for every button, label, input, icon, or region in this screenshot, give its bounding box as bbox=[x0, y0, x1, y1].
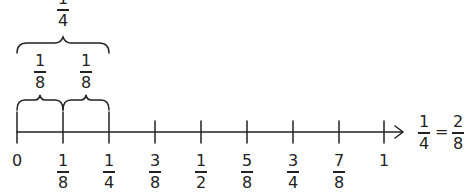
numerator: 1 bbox=[419, 113, 429, 131]
denominator: 8 bbox=[35, 74, 45, 92]
equation-right-fraction: 2 8 bbox=[452, 113, 464, 153]
tick-label-0: 0 bbox=[12, 152, 22, 170]
tick-label-1: 1 bbox=[379, 152, 389, 170]
tick-label-1-8: 1 8 bbox=[57, 152, 69, 192]
denominator: 8 bbox=[58, 174, 68, 192]
tick-label-5-8: 5 8 bbox=[241, 152, 253, 192]
numerator: 3 bbox=[150, 152, 160, 170]
numerator: 5 bbox=[242, 152, 252, 170]
tick-label-1-2: 1 2 bbox=[195, 152, 207, 192]
numerator: 7 bbox=[334, 152, 344, 170]
brace-lower-eighth-2 bbox=[63, 95, 109, 110]
denominator: 4 bbox=[419, 135, 429, 153]
denominator: 8 bbox=[242, 174, 252, 192]
denominator: 8 bbox=[453, 135, 463, 153]
denominator: 2 bbox=[196, 174, 206, 192]
tick-label-3-8: 3 8 bbox=[149, 152, 161, 192]
numerator: 1 bbox=[104, 152, 114, 170]
numerator: 1 bbox=[196, 152, 206, 170]
denominator: 4 bbox=[104, 174, 114, 192]
equation-left-fraction: 1 4 bbox=[418, 113, 430, 153]
brace-top-label: 1 4 bbox=[57, 0, 69, 30]
tick-label-7-8: 7 8 bbox=[333, 152, 345, 192]
tick-label-1-4: 1 4 bbox=[103, 152, 115, 192]
equals-sign: = bbox=[435, 123, 448, 141]
numerator: 2 bbox=[453, 113, 463, 131]
denominator: 8 bbox=[81, 74, 91, 92]
number-line-graphic bbox=[0, 0, 471, 195]
numerator: 1 bbox=[58, 152, 68, 170]
brace-lower-label-2: 1 8 bbox=[80, 52, 92, 92]
brace-top-quarter bbox=[17, 37, 109, 53]
numerator: 1 bbox=[58, 0, 68, 8]
denominator: 4 bbox=[288, 174, 298, 192]
numerator: 3 bbox=[288, 152, 298, 170]
denominator: 8 bbox=[150, 174, 160, 192]
denominator: 8 bbox=[334, 174, 344, 192]
brace-lower-eighth-1 bbox=[17, 95, 63, 110]
tick-label-3-4: 3 4 bbox=[287, 152, 299, 192]
brace-lower-label-1: 1 8 bbox=[34, 52, 46, 92]
numerator: 1 bbox=[81, 52, 91, 70]
denominator: 4 bbox=[58, 12, 68, 30]
numerator: 1 bbox=[35, 52, 45, 70]
